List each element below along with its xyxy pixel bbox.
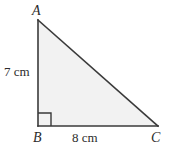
side-length-label-bc: 8 cm (72, 131, 98, 144)
side-length-label-ab: 7 cm (4, 65, 30, 78)
vertex-label-a: A (32, 4, 41, 18)
vertex-label-c: C (151, 131, 160, 145)
geometry-figure: A B C 7 cm 8 cm (0, 0, 170, 157)
vertex-label-b: B (33, 131, 42, 145)
